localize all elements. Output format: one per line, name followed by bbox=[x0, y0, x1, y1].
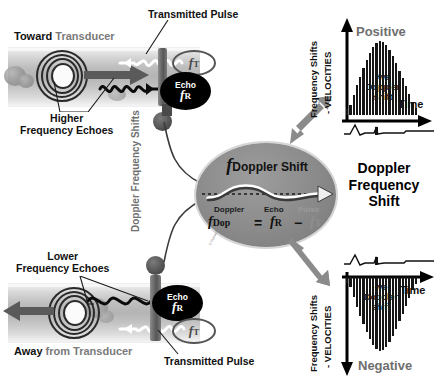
top-fr-subscript: R bbox=[184, 91, 191, 101]
positive-chart-y-label: Frequency Shifts bbox=[308, 41, 319, 118]
bottom-echo-caption-line1: Lower bbox=[16, 250, 109, 262]
bottom-fr-subscript: R bbox=[176, 303, 183, 313]
positive-chart-y-label-2: - VELOCITIES bbox=[322, 52, 333, 114]
bottom-vessel-heading: Away from Transducer bbox=[14, 345, 132, 358]
negative-chart-title: Negative bbox=[358, 358, 412, 373]
bottom-echo-caption-line2: Frequency Echoes bbox=[16, 262, 109, 274]
bottom-heading-bold: Away bbox=[14, 345, 43, 357]
positive-chart-annotation: +ve Doppler shift bbox=[356, 72, 410, 102]
eq-equals-sign: = bbox=[254, 215, 262, 231]
bottom-pulse-caption: Transmitted Pulse bbox=[164, 355, 254, 367]
positive-chart-ecg-trace bbox=[344, 122, 434, 138]
fdoppler-title-text: Doppler Shift bbox=[232, 160, 307, 174]
bottom-echo-caption-leaders bbox=[58, 276, 154, 308]
spectrum-bar bbox=[415, 277, 417, 284]
negative-chart-y-label-line1: Frequency Shifts bbox=[308, 295, 319, 372]
connector-label: Doppler Frequency Shifts bbox=[130, 110, 142, 232]
connector-label-line3: Shifts bbox=[130, 110, 141, 138]
bottom-echo-caption: Lower Frequency Echoes bbox=[16, 250, 109, 274]
negative-chart-y-label-line2: - VELOCITIES bbox=[322, 306, 333, 368]
negative-annot-line1: -ve bbox=[354, 282, 408, 292]
eq-fr-subscript: R bbox=[275, 217, 282, 228]
blood-cell-blob bbox=[18, 74, 34, 88]
figure-title-line2: Frequency bbox=[336, 177, 432, 194]
top-echo-caption-line1: Higher bbox=[20, 112, 113, 124]
top-heading-rest: Transducer bbox=[52, 30, 114, 42]
bottom-pulse-leader bbox=[156, 330, 182, 356]
top-echo-frequency-badge: Echo fR bbox=[160, 72, 211, 110]
figure-title: Doppler Frequency Shift bbox=[336, 160, 432, 210]
connector-label-line1: Doppler bbox=[130, 194, 141, 232]
bottom-heading-rest: from Transducer bbox=[43, 345, 133, 357]
top-pulse-caption: Transmitted Pulse bbox=[148, 8, 238, 20]
positive-chart-y-label-line2: - VELOCITIES bbox=[322, 52, 333, 114]
doppler-frequency-shift-figure: fT Echo fR Toward Transducer Higher Freq… bbox=[0, 0, 435, 379]
eq-label-echo: Echo bbox=[264, 205, 284, 214]
spectrum-bar bbox=[346, 277, 348, 283]
eq-label-pulse: Pulse bbox=[298, 205, 319, 214]
spectrum-bar bbox=[349, 277, 351, 287]
doppler-shift-ellipse-title: fDoppler Shift bbox=[206, 155, 328, 176]
negative-chart-y-label: Frequency Shifts bbox=[308, 295, 319, 372]
figure-title-line1: Doppler bbox=[336, 160, 432, 177]
eq-ft-subscript: T bbox=[315, 217, 322, 228]
top-heading-bold: Toward bbox=[14, 30, 52, 42]
positive-annot-line2: Doppler bbox=[356, 82, 410, 92]
doppler-wave-graphic bbox=[200, 178, 334, 208]
positive-annot-line1: +ve bbox=[356, 72, 410, 82]
eq-label-doppler: Doppler bbox=[214, 205, 244, 214]
top-vessel-heading: Toward Transducer bbox=[14, 30, 115, 43]
positive-chart-y-label-line1: Frequency Shifts bbox=[308, 41, 319, 118]
positive-doppler-chart: Positive Time Frequency Shifts - VELOCIT… bbox=[300, 14, 432, 136]
eq-minus-sign: − bbox=[294, 215, 302, 231]
negative-annot-line2: Doppler bbox=[354, 292, 408, 302]
bottom-ft-subscript: T bbox=[193, 327, 199, 337]
negative-chart-y-label-2: - VELOCITIES bbox=[322, 306, 333, 368]
top-echo-caption-leaders bbox=[52, 76, 130, 112]
spectrum-bar bbox=[346, 109, 348, 115]
top-ft-subscript: T bbox=[193, 59, 199, 69]
bottom-echo-frequency-badge: Echo fR bbox=[152, 285, 203, 321]
positive-chart-title: Positive bbox=[356, 24, 406, 39]
top-pulse-leader bbox=[142, 20, 170, 56]
negative-chart-ecg-trace bbox=[344, 252, 434, 268]
negative-chart-annotation: -ve Doppler shift bbox=[354, 282, 408, 312]
top-echo-caption-line2: Frequency Echoes bbox=[20, 124, 113, 136]
bottom-flow-direction-arrow bbox=[2, 300, 54, 322]
top-echo-caption: Higher Frequency Echoes bbox=[20, 112, 113, 136]
positive-annot-line3: shift bbox=[356, 92, 410, 102]
negative-doppler-chart: Negative Time Frequency Shifts - VELOCIT… bbox=[300, 252, 432, 374]
spectrum-bar bbox=[349, 105, 351, 115]
spectrum-bar bbox=[353, 95, 355, 115]
negative-annot-line3: shift bbox=[354, 302, 408, 312]
connector-label-line2: Frequency bbox=[130, 141, 141, 192]
figure-title-line3-shift: Shift bbox=[336, 193, 432, 210]
